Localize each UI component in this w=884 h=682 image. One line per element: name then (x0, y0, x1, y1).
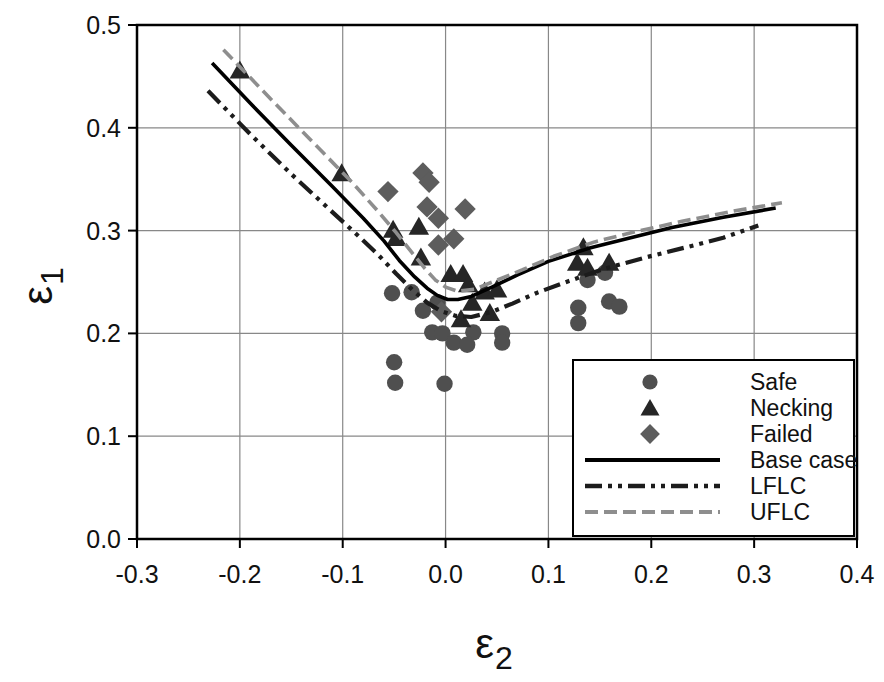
y-axis-label-subscript: 1 (34, 267, 70, 285)
legend-item-safe: Safe (574, 369, 853, 395)
legend-item-uflc: UFLC (574, 499, 853, 525)
lflc-line-icon (574, 473, 734, 499)
legend: Safe Necking Failed Base case LFLC UFLC (572, 359, 855, 537)
x-tick-label: -0.2 (218, 560, 261, 588)
y-axis-label-symbol: ε (14, 286, 61, 305)
fld-figure: -0.3-0.2-0.10.00.10.20.30.40.00.10.20.30… (0, 0, 884, 682)
curve-lflc (208, 91, 758, 317)
y-tick-label: 0.3 (86, 217, 121, 245)
x-tick-label: 0.4 (840, 560, 875, 588)
x-tick-label: 0.1 (531, 560, 566, 588)
chart-canvas: -0.3-0.2-0.10.00.10.20.30.40.00.10.20.30… (0, 0, 884, 682)
legend-label: Failed (750, 421, 813, 447)
y-tick-label: 0.0 (86, 525, 121, 553)
legend-label: LFLC (750, 473, 806, 499)
curve-uflc (223, 50, 782, 292)
x-tick-label: 0.3 (737, 560, 772, 588)
legend-label: UFLC (750, 499, 810, 525)
y-tick-label: 0.2 (86, 319, 121, 347)
legend-label: Base case (750, 447, 857, 473)
x-axis-label-symbol: ε (475, 620, 494, 667)
legend-label: Safe (750, 369, 797, 395)
failed-marker-icon (574, 421, 734, 447)
uflc-line-icon (574, 499, 734, 525)
legend-item-lflc: LFLC (574, 473, 853, 499)
x-tick-label: -0.3 (115, 560, 158, 588)
legend-item-necking: Necking (574, 395, 853, 421)
safe-marker-icon (574, 369, 734, 395)
necking-marker-icon (574, 395, 734, 421)
legend-label: Necking (750, 395, 833, 421)
x-axis-label-subscript: 2 (495, 640, 513, 676)
x-tick-label: 0.2 (634, 560, 669, 588)
y-axis-label: ε1 (17, 267, 59, 305)
legend-item-failed: Failed (574, 421, 853, 447)
x-axis-label: ε2 (475, 623, 513, 665)
base-case-line-icon (574, 447, 734, 473)
x-tick-label: -0.1 (321, 560, 364, 588)
y-tick-label: 0.4 (86, 114, 121, 142)
y-tick-label: 0.1 (86, 422, 121, 450)
x-tick-labels: -0.3-0.2-0.10.00.10.20.30.4 (115, 560, 874, 588)
x-tick-label: 0.0 (428, 560, 463, 588)
curve-base-case (212, 63, 776, 300)
y-tick-labels: 0.00.10.20.30.40.5 (86, 11, 121, 553)
y-tick-label: 0.5 (86, 11, 121, 39)
legend-item-base-case: Base case (574, 447, 853, 473)
